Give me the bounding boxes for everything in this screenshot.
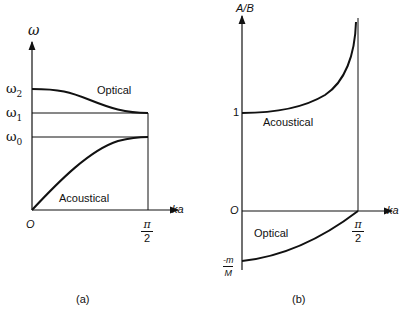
optical-label-a: Optical bbox=[97, 84, 131, 96]
omega-axis-label: ω bbox=[28, 22, 39, 38]
ka-label-b: ka bbox=[387, 204, 399, 216]
omega1-label: ω1 bbox=[6, 105, 22, 123]
optical-label-b: Optical bbox=[254, 227, 288, 239]
ab-axis-label: A/B bbox=[236, 2, 254, 14]
acoustical-branch-b bbox=[242, 22, 356, 113]
omega0-label: ω0 bbox=[6, 129, 22, 147]
pi-over-2-b: π2 bbox=[352, 219, 364, 244]
origin-label-a: O bbox=[26, 218, 35, 230]
ka-label-a: ka bbox=[172, 203, 184, 215]
panel-a-axes bbox=[32, 42, 178, 210]
caption-a: (a) bbox=[76, 293, 89, 305]
neg-m-over-M: -mM bbox=[223, 255, 234, 278]
pi-over-2-a: π2 bbox=[141, 219, 153, 244]
omega2-label: ω2 bbox=[6, 81, 22, 99]
acoustical-label-b: Acoustical bbox=[263, 116, 313, 128]
dispersion-diagrams bbox=[0, 0, 402, 312]
acoustical-label-a: Acoustical bbox=[59, 192, 109, 204]
caption-b: (b) bbox=[292, 293, 305, 305]
origin-label-b: O bbox=[230, 204, 239, 216]
one-label: 1 bbox=[233, 106, 239, 118]
